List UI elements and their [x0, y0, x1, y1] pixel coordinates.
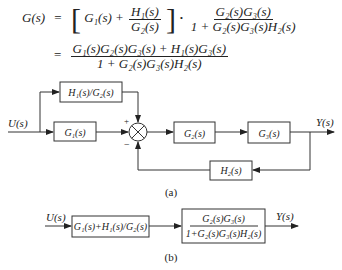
block-closed-loop-denominator: 1+G₂(s)G₃(s)H₂(s) — [186, 228, 262, 240]
input-label-b: U(s) — [46, 211, 66, 224]
block-diagram-a: U(s) Y(s) H₁(s)/G₂(s) G₁(s) G₂(s) G₃(s) … — [0, 0, 342, 270]
minus-sign: − — [124, 139, 130, 150]
output-label-b: Y(s) — [276, 210, 294, 223]
caption-b: (b) — [165, 251, 178, 264]
block-closed-loop-numerator: G₂(s)G₃(s) — [202, 213, 245, 225]
block-combined-forward-label: G₁(s)+H₁(s)/G₂(s) — [74, 221, 148, 233]
input-label-a: U(s) — [8, 117, 28, 130]
block-g2-label: G₂(s) — [184, 128, 206, 140]
block-g3-label: G₃(s) — [258, 128, 280, 140]
output-label-a: Y(s) — [316, 116, 334, 129]
block-h2-label: H₂(s) — [219, 165, 242, 177]
block-h1-over-g2-label: H₁(s)/G₂(s) — [67, 87, 114, 99]
caption-a: (a) — [165, 186, 178, 199]
plus-sign: + — [124, 116, 129, 126]
block-g1-label: G₁(s) — [64, 127, 86, 139]
